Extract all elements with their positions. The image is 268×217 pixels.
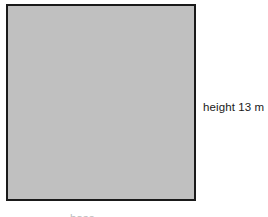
base-dimension-label-clipped: base (70, 211, 95, 217)
figure-canvas: height 13 m base (0, 0, 268, 217)
shaded-rectangle-shape (6, 4, 196, 201)
height-dimension-label: height 13 m (203, 100, 264, 114)
